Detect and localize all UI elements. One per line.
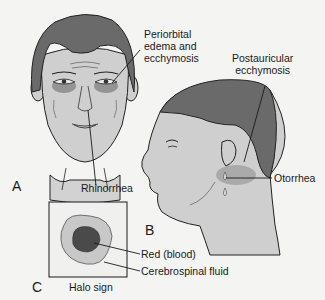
panel-letter-c: C xyxy=(32,279,42,295)
frontal-face-drawing xyxy=(31,14,138,203)
postauricular-label: Postauricular ecchymosis xyxy=(232,52,293,76)
csf-label: Cerebrospinal fluid xyxy=(141,265,229,277)
periorbital-label-line1: Periorbital xyxy=(144,28,199,40)
periorbital-label-line2: edema and xyxy=(144,40,199,52)
rhinorrhea-label: Rhinorrhea xyxy=(81,182,133,194)
postauricular-label-line2: ecchymosis xyxy=(232,64,293,76)
postauricular-label-line1: Postauricular xyxy=(232,52,293,64)
panel-letter-b: B xyxy=(145,222,154,238)
profile-head-drawing xyxy=(142,80,285,255)
periorbital-label-line3: ecchymosis xyxy=(144,52,199,64)
panel-letter-a: A xyxy=(12,178,21,194)
blood-center xyxy=(73,227,100,252)
red-blood-label: Red (blood) xyxy=(141,248,196,260)
otorrhea-label: Otorrhea xyxy=(274,172,315,184)
halo-sign-label: Halo sign xyxy=(69,281,113,293)
periorbital-label: Periorbital edema and ecchymosis xyxy=(144,28,199,64)
